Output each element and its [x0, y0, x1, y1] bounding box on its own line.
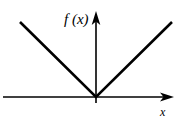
- y-axis-label: f (x): [64, 11, 89, 28]
- absolute-value-graph-figure: f (x) x: [0, 0, 184, 123]
- x-axis-label: x: [159, 105, 166, 119]
- graph-canvas: f (x) x: [0, 0, 184, 123]
